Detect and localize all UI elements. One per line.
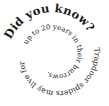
spiral-body-inner: up to 20 years in their burrows. [22,23,84,81]
headline-did-you-know: Did you know? [1,1,98,41]
spiral-text-graphic: Did you know? Trapdoor spiders may live … [0,0,109,106]
